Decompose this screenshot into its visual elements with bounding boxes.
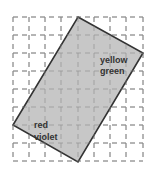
label-violet: violet [34,132,58,142]
label-yellow: yellow [100,55,129,65]
label-red: red [34,120,48,130]
color-rectangle-diagram: yellow green red violet [0,0,152,175]
label-green: green [100,66,125,76]
